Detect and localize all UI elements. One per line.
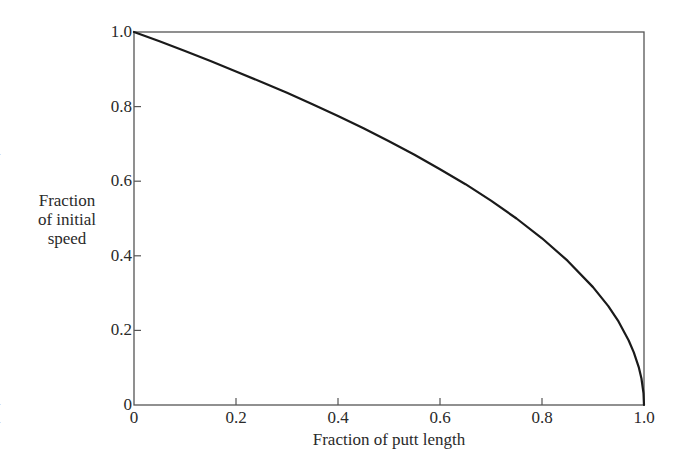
x-tick-label: 1.0 <box>633 408 654 427</box>
speed-curve <box>134 32 644 405</box>
y-axis-label: Fractionof initialspeed <box>38 191 96 248</box>
y-tick-label: 0.4 <box>111 246 133 265</box>
y-axis-title-line: of initial <box>38 210 96 229</box>
y-tick-label: 0 <box>124 395 133 414</box>
y-tick-label: 0.2 <box>111 320 132 339</box>
x-tick-label: 0.8 <box>531 408 552 427</box>
y-axis-title-line: speed <box>48 229 87 248</box>
x-axis-label: Fraction of putt length <box>313 430 466 449</box>
axis-ticks <box>134 107 542 405</box>
tick-labels: 00.20.40.60.81.000.20.40.60.81.0 <box>111 22 655 427</box>
y-tick-label: 0.8 <box>111 97 132 116</box>
x-tick-label: 0.6 <box>429 408 450 427</box>
x-tick-label: 0.2 <box>225 408 246 427</box>
y-axis-title-line: Fraction <box>39 191 96 210</box>
y-tick-label: 0.6 <box>111 171 132 190</box>
x-tick-label: 0.4 <box>327 408 349 427</box>
plot-frame <box>134 32 644 405</box>
y-tick-label: 1.0 <box>111 22 132 41</box>
speed-vs-putt-length-chart: Fractionof initialspeed Fraction of putt… <box>0 0 689 472</box>
x-axis-title: Fraction of putt length <box>313 430 466 449</box>
